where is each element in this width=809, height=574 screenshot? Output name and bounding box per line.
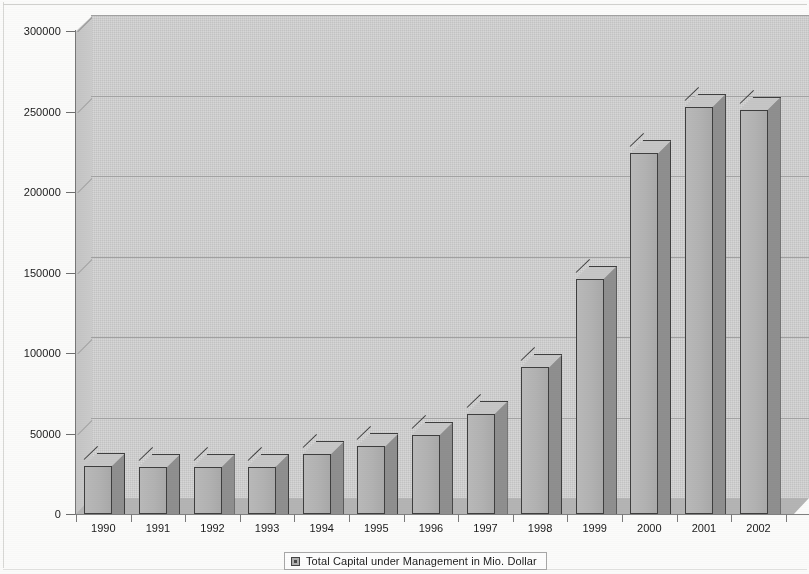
gridline-depth-connector xyxy=(75,15,92,32)
bar xyxy=(194,467,222,514)
y-axis-tick xyxy=(66,514,75,515)
bar-top-edge xyxy=(84,466,112,467)
x-axis-tick xyxy=(786,514,787,522)
bar xyxy=(467,414,495,514)
bar-top-edge xyxy=(521,367,549,368)
legend-label: Total Capital under Management in Mio. D… xyxy=(306,555,537,567)
bar-top-edge xyxy=(152,454,180,455)
x-axis-label: 1994 xyxy=(309,522,333,534)
y-axis-line xyxy=(75,30,76,515)
x-axis-label: 1995 xyxy=(364,522,388,534)
bar-front-face xyxy=(194,467,222,514)
x-axis-label: 1999 xyxy=(582,522,606,534)
x-axis-tick xyxy=(513,514,514,522)
bar xyxy=(357,446,385,514)
bar-top-edge xyxy=(685,107,713,108)
bar xyxy=(576,279,604,514)
bar-top-edge xyxy=(194,467,222,468)
x-axis-tick xyxy=(294,514,295,522)
bar-front-face xyxy=(248,467,276,514)
bar-front-face xyxy=(303,454,331,514)
bar xyxy=(248,467,276,514)
y-axis-tick xyxy=(66,112,75,113)
y-axis-label: 0 xyxy=(55,508,61,520)
bar-side-face xyxy=(494,401,508,514)
y-axis-tick xyxy=(66,31,75,32)
gridline-depth-connector xyxy=(75,176,92,193)
bar-front-face xyxy=(139,467,167,514)
bar-top-edge xyxy=(248,467,276,468)
bar xyxy=(303,454,331,514)
x-axis-tick xyxy=(622,514,623,522)
gridline-depth-connector xyxy=(75,257,92,274)
scanned-page: 050000100000150000200000250000300000 199… xyxy=(0,0,809,574)
bar-chart: 050000100000150000200000250000300000 199… xyxy=(0,0,809,540)
x-axis-label: 2000 xyxy=(637,522,661,534)
bar-side-face xyxy=(439,422,453,514)
x-axis-tick xyxy=(458,514,459,522)
bar xyxy=(630,153,658,514)
bar-side-face xyxy=(548,354,562,514)
y-axis-label: 300000 xyxy=(24,25,61,37)
bar-top-edge xyxy=(480,401,508,402)
x-axis-label: 1990 xyxy=(91,522,115,534)
bar-top-edge xyxy=(630,153,658,154)
bar-side-face xyxy=(712,94,726,514)
bar-top-edge xyxy=(534,354,562,355)
bar-front-face xyxy=(357,446,385,514)
x-axis-tick xyxy=(404,514,405,522)
bar-top-edge xyxy=(753,97,781,98)
bar-side-face xyxy=(657,140,671,514)
x-axis-label: 2002 xyxy=(746,522,770,534)
x-axis-label: 1996 xyxy=(419,522,443,534)
x-axis-tick xyxy=(349,514,350,522)
bar xyxy=(740,110,768,514)
y-axis-label: 100000 xyxy=(24,347,61,359)
bar-top-edge xyxy=(207,454,235,455)
bar-front-face xyxy=(84,466,112,514)
bar-top-edge xyxy=(467,414,495,415)
x-axis-tick xyxy=(567,514,568,522)
bar-front-face xyxy=(467,414,495,514)
x-axis-tick xyxy=(677,514,678,522)
x-axis-tick xyxy=(131,514,132,522)
bar-top-edge xyxy=(740,110,768,111)
bar-top-edge xyxy=(589,266,617,267)
chart-legend: Total Capital under Management in Mio. D… xyxy=(284,552,547,570)
bar-top-edge xyxy=(425,422,453,423)
gridline-depth-connector xyxy=(75,96,92,113)
bar-front-face xyxy=(685,107,713,514)
bar-front-face xyxy=(630,153,658,514)
x-axis-tick xyxy=(76,514,77,522)
bar-top-edge xyxy=(412,435,440,436)
bar-side-face xyxy=(603,266,617,514)
gridline-depth-connector xyxy=(75,337,92,354)
bar-top-edge xyxy=(97,453,125,454)
x-axis-label: 1993 xyxy=(255,522,279,534)
x-axis-label: 1997 xyxy=(473,522,497,534)
bar xyxy=(412,435,440,514)
y-axis-tick xyxy=(66,353,75,354)
bar-front-face xyxy=(521,367,549,514)
x-axis-label: 1998 xyxy=(528,522,552,534)
bar-top-edge xyxy=(139,467,167,468)
bar-side-face xyxy=(767,97,781,514)
x-axis-label: 2001 xyxy=(692,522,716,534)
bar-top-edge xyxy=(357,446,385,447)
y-axis-label: 200000 xyxy=(24,186,61,198)
x-axis-label: 1992 xyxy=(200,522,224,534)
x-axis-tick xyxy=(185,514,186,522)
bar-top-edge xyxy=(370,433,398,434)
y-axis-tick xyxy=(66,434,75,435)
x-axis-tick xyxy=(240,514,241,522)
y-axis-tick xyxy=(66,273,75,274)
bar-top-edge xyxy=(643,140,671,141)
bar-top-edge xyxy=(576,279,604,280)
y-axis-label: 50000 xyxy=(30,428,61,440)
bar xyxy=(139,467,167,514)
bar-front-face xyxy=(576,279,604,514)
y-axis-label: 250000 xyxy=(24,106,61,118)
bar-top-edge xyxy=(316,441,344,442)
bar xyxy=(685,107,713,514)
bar xyxy=(84,466,112,514)
